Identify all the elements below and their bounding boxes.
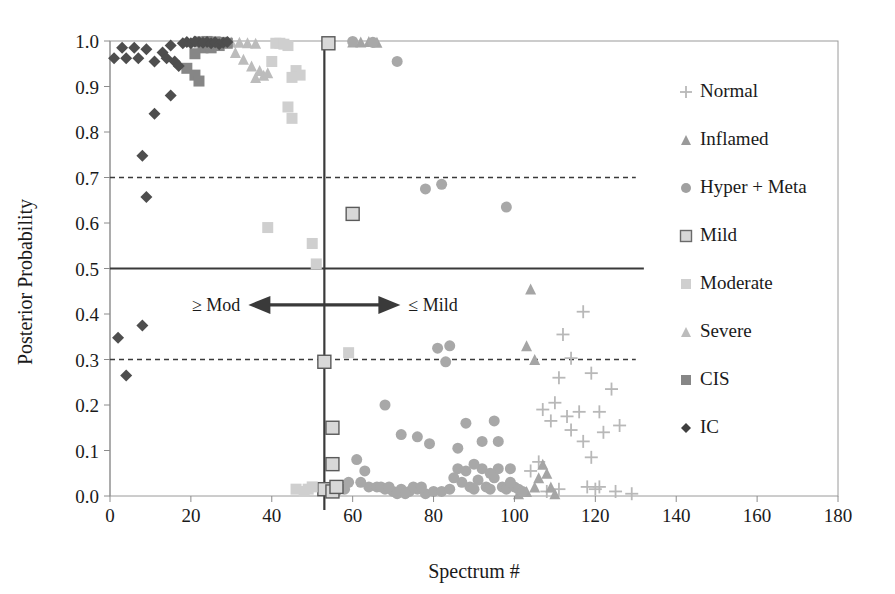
data-point (517, 486, 528, 497)
legend-label: Mild (700, 224, 737, 245)
data-point (505, 477, 516, 488)
data-point (282, 40, 293, 51)
data-point (343, 347, 354, 358)
x-axis-title: Spectrum # (428, 560, 520, 583)
x-tick-label: 20 (181, 505, 200, 526)
data-point (436, 179, 447, 190)
annotation-le-mild: ≤ Mild (408, 295, 457, 315)
data-point (460, 418, 471, 429)
data-point (477, 436, 488, 447)
data-point (396, 429, 407, 440)
data-point (189, 48, 200, 59)
y-tick-label: 0.8 (75, 122, 99, 143)
x-tick-label: 100 (500, 505, 529, 526)
y-tick-label: 1.0 (75, 31, 99, 52)
data-point (505, 463, 516, 474)
annotation-ge-mod: ≥ Mod (192, 295, 240, 315)
y-tick-label: 0.0 (75, 486, 99, 507)
data-point (291, 484, 302, 495)
chart-canvas: 020406080100120140160180 0.00.10.20.30.4… (0, 0, 895, 594)
data-point (359, 465, 370, 476)
data-point (326, 458, 339, 471)
data-point (307, 238, 318, 249)
legend-label: Moderate (700, 272, 773, 293)
data-point (424, 438, 435, 449)
x-tick-label: 60 (343, 505, 362, 526)
x-tick-label: 180 (824, 505, 853, 526)
legend-label: Inflamed (700, 128, 769, 149)
data-point (440, 356, 451, 367)
data-point (493, 436, 504, 447)
data-point (469, 459, 480, 470)
y-axis-title: Posterior Probability (14, 199, 37, 365)
x-tick-label: 140 (662, 505, 691, 526)
data-point (326, 421, 339, 434)
x-axis-ticks: 020406080100120140160180 (105, 496, 852, 526)
data-point (485, 468, 496, 479)
data-point (485, 484, 496, 495)
data-point (420, 183, 431, 194)
y-tick-label: 0.9 (75, 77, 99, 98)
data-point (412, 431, 423, 442)
data-point (489, 415, 500, 426)
y-tick-label: 0.5 (75, 259, 99, 280)
y-tick-label: 0.4 (75, 304, 99, 325)
scatter-chart: 020406080100120140160180 0.00.10.20.30.4… (0, 0, 895, 594)
x-tick-label: 40 (262, 505, 281, 526)
data-point (392, 56, 403, 67)
y-tick-label: 0.7 (75, 168, 99, 189)
data-point (330, 480, 343, 493)
x-tick-label: 80 (424, 505, 443, 526)
y-tick-label: 0.1 (75, 441, 99, 462)
legend-item-hyper-meta[interactable]: Hyper + Meta (681, 176, 807, 197)
legend-label: Normal (700, 80, 758, 101)
data-point (282, 101, 293, 112)
data-point (311, 258, 322, 269)
data-point (448, 472, 459, 483)
legend-label: IC (700, 416, 719, 437)
data-point (432, 343, 443, 354)
y-tick-label: 0.6 (75, 213, 99, 234)
legend-label: CIS (700, 368, 730, 389)
data-point (262, 222, 273, 233)
legend-label: Hyper + Meta (700, 176, 807, 197)
x-tick-label: 120 (581, 505, 610, 526)
data-point (318, 355, 331, 368)
legend-label: Severe (700, 320, 752, 341)
data-point (287, 72, 298, 83)
x-tick-label: 160 (743, 505, 772, 526)
data-point (347, 36, 358, 47)
y-axis-ticks: 0.00.10.20.30.40.50.60.70.80.91.0 (75, 31, 110, 507)
data-point (416, 481, 427, 492)
data-point (307, 481, 318, 492)
data-point (444, 484, 455, 495)
data-point (287, 113, 298, 124)
legend-marker-square-open-icon (681, 231, 692, 242)
data-point (266, 56, 277, 67)
data-point (367, 37, 378, 48)
legend-marker-square-icon (681, 375, 691, 385)
data-point (193, 76, 204, 87)
data-point (346, 207, 359, 220)
y-tick-label: 0.3 (75, 350, 99, 371)
data-point (380, 400, 391, 411)
data-point (351, 454, 362, 465)
data-point (452, 443, 463, 454)
legend-marker-circle-icon (681, 183, 691, 193)
data-point (343, 477, 354, 488)
y-tick-label: 0.2 (75, 395, 99, 416)
data-point (355, 477, 366, 488)
data-point (501, 202, 512, 213)
data-point (322, 37, 335, 50)
legend-marker-square-icon (681, 279, 691, 289)
data-point (444, 340, 455, 351)
x-tick-label: 0 (105, 505, 115, 526)
